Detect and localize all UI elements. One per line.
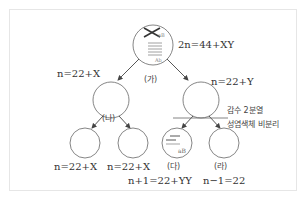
annotation-line1: 감수 2분열 xyxy=(227,107,263,115)
cell-da xyxy=(162,128,192,158)
ra-label: (라) xyxy=(214,163,227,171)
annotation-line2: 성염색체 비분리 xyxy=(227,121,279,129)
cell-right-secondary xyxy=(183,82,219,118)
da-allele: aB xyxy=(178,148,186,154)
lr-formula: n=22+X xyxy=(107,162,150,172)
cell-ll xyxy=(70,128,100,158)
right-secondary-formula: n=22+Y xyxy=(211,77,254,87)
ga-allele-bottom: Ab xyxy=(155,58,162,63)
da-label: (다) xyxy=(167,163,180,171)
cell-na xyxy=(93,82,129,118)
ra-formula: n−1=22 xyxy=(203,176,245,186)
na-label: (나) xyxy=(102,115,115,123)
cell-lr xyxy=(118,128,148,158)
ga-label: (가) xyxy=(144,76,157,84)
cell-ra xyxy=(209,128,239,158)
meiosis-diagram-graphic xyxy=(0,0,306,202)
ll-formula: n=22+X xyxy=(54,162,97,172)
ga-formula: 2n=44+XY xyxy=(178,40,234,50)
ga-allele-top: aB xyxy=(158,33,165,38)
left-secondary-formula: n=22+X xyxy=(57,69,100,79)
da-formula: n+1=22+YY xyxy=(128,176,192,186)
